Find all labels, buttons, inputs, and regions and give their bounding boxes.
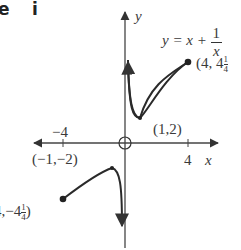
point-label-neg4-main: 4,−4	[0, 203, 21, 219]
tick-label-4: 4	[184, 153, 192, 168]
point-label-4-4.25: (4, 414	[196, 55, 228, 74]
point-label-neg4-neg4.25: 4,−414)	[0, 203, 31, 222]
point-label-4-main: (4, 4	[196, 55, 224, 71]
equation-lhs: y = x +	[162, 32, 207, 48]
y-axis-label: y	[135, 9, 142, 24]
tick-label-neg4: −4	[52, 125, 68, 140]
equation-label: y = x + 1 x	[162, 25, 222, 59]
fraction-quarter: 14	[224, 55, 229, 74]
x-axis-label: x	[205, 153, 212, 168]
curve-negative-branch	[63, 168, 112, 199]
point-label-neg1-neg2: (−1,−2)	[32, 152, 78, 167]
point-label-1-2: (1,2)	[153, 122, 182, 137]
point-1-2	[138, 116, 142, 120]
point-label-neg4-close: )	[26, 203, 31, 219]
point-neg1-neg2	[110, 166, 114, 170]
equation-numerator: 1	[211, 25, 223, 43]
point-neg4-neg4.25	[60, 196, 67, 203]
point-4-4.25	[185, 59, 192, 66]
equation-fraction: 1 x	[211, 25, 223, 59]
